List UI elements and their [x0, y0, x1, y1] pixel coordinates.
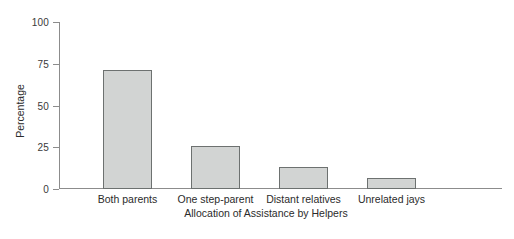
- plot-area: [59, 22, 500, 189]
- x-axis-title-text: Allocation of Assistance by Helpers: [184, 207, 347, 219]
- y-axis-tick-label: 0: [43, 184, 49, 195]
- y-axis-tick-label: 100: [32, 17, 49, 28]
- y-axis-title: Percentage: [14, 51, 26, 171]
- bar: [103, 70, 152, 189]
- bar-chart-figure: 1007550250 Percentage Both parentsOne st…: [0, 0, 514, 239]
- x-axis-category-label: One step-parent: [178, 193, 254, 205]
- y-axis-tick-label: 75: [37, 58, 49, 69]
- x-axis-category-label: Distant relatives: [266, 193, 341, 205]
- bar: [279, 167, 328, 189]
- y-axis-tick-label: 25: [37, 142, 49, 153]
- y-axis-tick-mark: [53, 189, 59, 190]
- x-axis-title: Allocation of Assistance by Helpers: [0, 207, 514, 219]
- bar: [191, 146, 240, 189]
- x-axis-category-label: Unrelated jays: [358, 193, 425, 205]
- y-axis-tick-label: 50: [37, 100, 49, 111]
- x-axis-category-label: Both parents: [98, 193, 158, 205]
- bar: [367, 178, 416, 189]
